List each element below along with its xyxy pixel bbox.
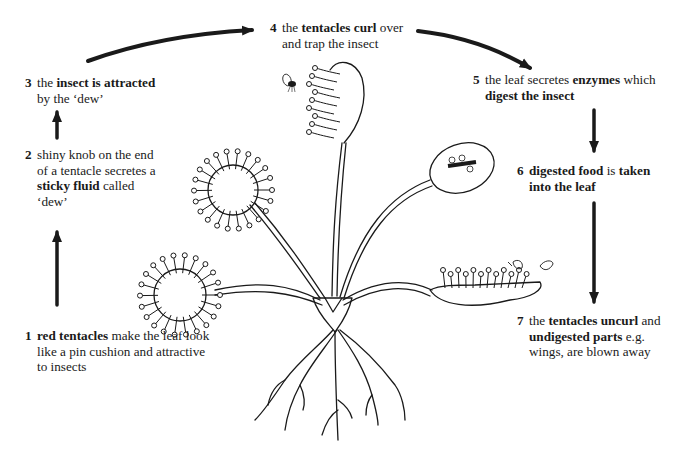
- step-number: 4: [270, 20, 277, 36]
- step-number: 6: [517, 163, 524, 179]
- arrow-3-to-4: [88, 30, 252, 61]
- digested-insect-icon: [448, 155, 476, 172]
- leaf-pincushion-lower: [154, 269, 206, 321]
- fly-icon: [281, 73, 296, 92]
- step-text: the tentacles uncurl and undigested part…: [517, 313, 667, 360]
- leaf-uncurling: [430, 282, 541, 305]
- plant-illustration: [0, 0, 676, 461]
- step-number: 1: [25, 328, 32, 344]
- step-number: 7: [517, 313, 524, 329]
- leaf-curling: [330, 62, 364, 143]
- leaf-pincushion-upper: [208, 165, 258, 215]
- step-number: 2: [25, 147, 32, 163]
- roots: [255, 330, 405, 440]
- step-number: 5: [473, 72, 480, 88]
- step-text: digested food is taken into the leaf: [517, 163, 657, 194]
- step-1-label: 1red tentacles make the leaf look like a…: [25, 328, 215, 375]
- step-4-label: 4the tentacles curl over and trap the in…: [270, 20, 410, 51]
- arrow-4-to-5: [418, 31, 530, 68]
- step-number: 3: [25, 75, 32, 91]
- step-text: the insect is attracted by the ‘dew’: [25, 75, 165, 106]
- step-3-label: 3the insect is attracted by the ‘dew’: [25, 75, 165, 106]
- step-6-label: 6digested food is taken into the leaf: [517, 163, 657, 194]
- step-text: shiny knob on the end of a tentacle secr…: [25, 147, 165, 209]
- step-5-label: 5the leaf secretes enzymes which digest …: [473, 72, 673, 103]
- step-text: red tentacles make the leaf look like a …: [25, 328, 215, 375]
- sundew-diagram: 1red tentacles make the leaf look like a…: [0, 0, 676, 461]
- step-2-label: 2shiny knob on the end of a tentacle sec…: [25, 147, 165, 209]
- wings-icon: [508, 260, 553, 269]
- step-7-label: 7the tentacles uncurl and undigested par…: [517, 313, 667, 360]
- leaf-digesting: [423, 134, 501, 202]
- step-text: the tentacles curl over and trap the ins…: [270, 20, 410, 51]
- step-text: the leaf secretes enzymes which digest t…: [473, 72, 673, 103]
